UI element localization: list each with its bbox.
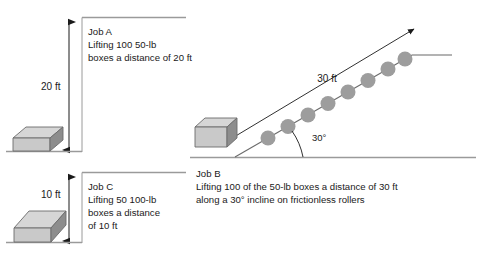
job-b-box <box>195 118 237 147</box>
job-b-group: 30 ft 30° Job B Lifting 100 of the 50-lb… <box>190 29 476 205</box>
roller <box>398 52 413 67</box>
job-b-line2: along a 30° incline on frictionless roll… <box>196 194 365 205</box>
roller <box>261 131 276 146</box>
job-c-line2: boxes a distance <box>88 207 160 218</box>
job-c-dimension-label: 10 ft <box>41 189 61 200</box>
job-a-dimension-label: 20 ft <box>41 81 61 92</box>
roller <box>321 96 336 111</box>
job-a-box <box>13 127 63 151</box>
roller <box>381 62 396 77</box>
roller <box>301 108 316 123</box>
job-c-heading: Job C <box>88 181 113 192</box>
work-jobs-figure: 20 ft Job A Lifting 100 50-lb boxes a di… <box>0 0 480 256</box>
roller <box>281 119 296 134</box>
job-a-line1: Lifting 100 50-lb <box>88 39 156 50</box>
roller <box>341 85 356 100</box>
job-c-group: 10 ft Job C Lifting 50 100-lb boxes a di… <box>6 173 186 244</box>
job-b-line1: Lifting 100 of the 50-lb boxes a distanc… <box>196 181 398 192</box>
job-b-angle-label: 30° <box>312 132 327 143</box>
diagram-canvas: 20 ft Job A Lifting 100 50-lb boxes a di… <box>0 0 480 256</box>
roller <box>361 73 376 88</box>
job-b-dimension-label: 30 ft <box>317 73 337 84</box>
job-c-line1: Lifting 50 100-lb <box>88 194 156 205</box>
job-a-line2: boxes a distance of 20 ft <box>88 52 192 63</box>
job-a-heading: Job A <box>88 26 113 37</box>
job-c-box <box>14 211 66 242</box>
job-b-angle-arc <box>292 131 303 157</box>
job-c-line3: of 10 ft <box>88 220 118 231</box>
job-b-heading: Job B <box>196 168 221 179</box>
job-a-group: 20 ft Job A Lifting 100 50-lb boxes a di… <box>6 18 192 153</box>
